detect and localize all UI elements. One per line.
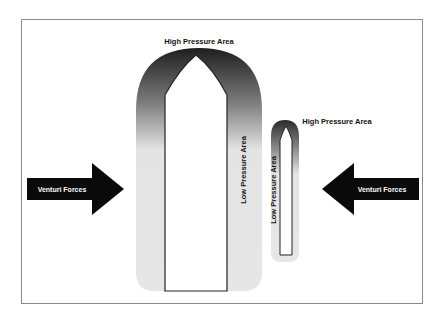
large-low-pressure-label: Low Pressure Area	[239, 135, 248, 203]
right-arrow-label: Venturi Forces	[358, 186, 407, 193]
large-high-pressure-label: High Pressure Area	[164, 37, 234, 46]
left-venturi-arrow: Venturi Forces	[27, 163, 124, 215]
left-arrow-label: Venturi Forces	[38, 186, 87, 193]
large-vessel: High Pressure Area Low Pressure Area	[136, 37, 262, 291]
right-venturi-arrow: Venturi Forces	[322, 163, 419, 215]
venturi-diagram: High Pressure Area Low Pressure Area Hig…	[0, 0, 445, 316]
small-high-pressure-label: High Pressure Area	[302, 117, 372, 126]
large-hull	[165, 55, 227, 291]
small-hull	[280, 126, 292, 255]
small-low-pressure-label: Low Pressure Area	[269, 155, 278, 223]
